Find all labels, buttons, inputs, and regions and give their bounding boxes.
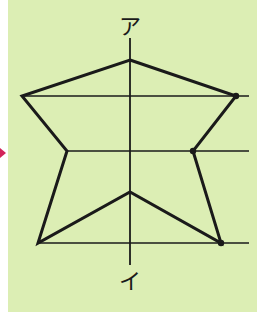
figure-stage: ア イ bbox=[0, 0, 264, 318]
folded-shape-diagram: ア イ bbox=[0, 0, 264, 318]
label-top: ア bbox=[119, 14, 141, 39]
point-marker-2 bbox=[190, 148, 196, 154]
label-bottom: イ bbox=[119, 269, 141, 294]
point-marker-3 bbox=[218, 240, 224, 246]
arrow-tip-icon bbox=[0, 148, 6, 158]
point-marker-1 bbox=[233, 93, 239, 99]
